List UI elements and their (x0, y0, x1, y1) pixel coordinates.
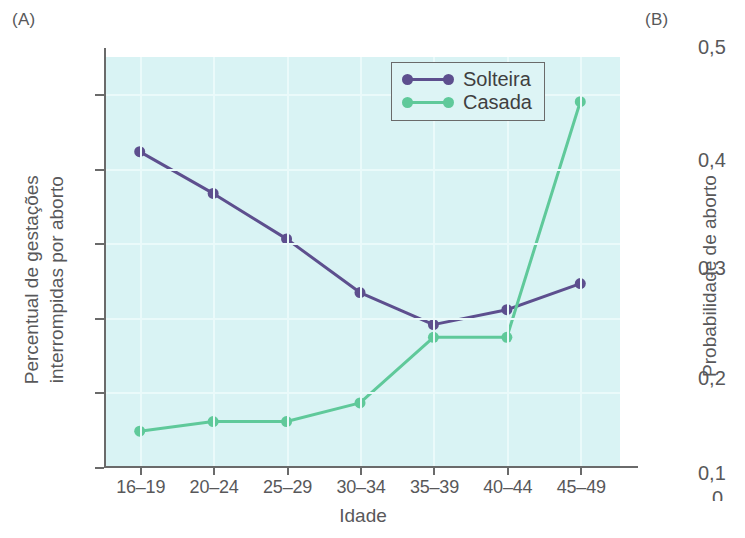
gridline-vertical (140, 57, 142, 467)
x-tick-label: 45–49 (538, 477, 624, 498)
legend: Solteira Casada (391, 62, 545, 121)
y-tick-mark (95, 392, 104, 394)
gridline-horizontal (106, 243, 620, 245)
panel-b-y-tick-label: 0,5 (698, 36, 726, 59)
x-axis-line (104, 466, 638, 468)
x-tick-mark (287, 466, 289, 475)
legend-item-casada[interactable]: Casada (402, 91, 532, 114)
panel-b-y-tick-label: 0,3 (698, 257, 726, 280)
y-tick-mark (95, 94, 104, 96)
x-axis-title: Idade (106, 505, 620, 527)
y-tick-mark (95, 467, 104, 469)
y-axis-title-line1: Percentual de gestações (21, 175, 42, 384)
x-tick-mark (507, 466, 509, 475)
x-tick-mark (140, 466, 142, 475)
y-tick-mark (95, 243, 104, 245)
gridline-vertical (287, 57, 289, 467)
y-axis-title: Percentual de gestações interrompidas po… (20, 115, 69, 445)
x-tick-mark (213, 466, 215, 475)
legend-label-solteira: Solteira (463, 68, 531, 91)
panel-a: (A) 01020304050 16–1920–2425–2930–3435–3… (0, 0, 640, 538)
x-tick-mark (433, 466, 435, 475)
x-tick-mark (360, 466, 362, 475)
panel-b-partial-tick-label: 0 (712, 487, 723, 501)
legend-swatch-solteira (402, 73, 454, 87)
y-tick-mark (95, 318, 104, 320)
y-tick-mark (95, 169, 104, 171)
gridline-horizontal (106, 169, 620, 171)
panel-b-y-tick-label: 0,2 (698, 367, 726, 390)
panel-b-y-tick-label: 0,4 (698, 149, 726, 172)
panel-a-label: (A) (12, 10, 36, 30)
x-tick-mark (580, 466, 582, 475)
legend-swatch-casada (402, 96, 454, 110)
panel-b-label: (B) (645, 10, 669, 30)
legend-item-solteira[interactable]: Solteira (402, 68, 532, 91)
y-axis-line (104, 48, 106, 468)
gridline-horizontal (106, 318, 620, 320)
gridline-vertical (213, 57, 215, 467)
panel-b-y-tick-label: 0,1 (698, 462, 726, 485)
gridline-vertical (580, 57, 582, 467)
y-axis-title-line2: interrompidas por aborto (46, 176, 67, 383)
gridline-horizontal (106, 392, 620, 394)
gridline-vertical (360, 57, 362, 467)
panel-b: (B) Probabilidade de aborto 0,50,40,30,2… (640, 0, 745, 538)
legend-label-casada: Casada (463, 91, 532, 114)
